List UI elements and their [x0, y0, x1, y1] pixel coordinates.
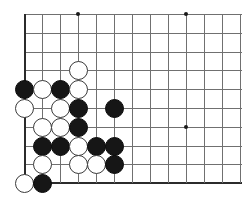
board-edge-bottom [24, 182, 242, 184]
stone-white-e9[interactable] [87, 155, 106, 174]
grid-line-horizontal-1 [24, 14, 242, 15]
stone-black-d7[interactable] [69, 118, 88, 137]
go-board [0, 0, 242, 203]
star-point-top-left [76, 12, 80, 16]
grid-line-horizontal-3 [24, 52, 242, 53]
grid-line-vertical-12 [222, 14, 223, 183]
goban-grid [0, 0, 242, 203]
stone-white-b5[interactable] [33, 80, 52, 99]
stone-white-d5[interactable] [69, 80, 88, 99]
stone-white-b7[interactable] [33, 118, 52, 137]
stone-white-d8[interactable] [69, 137, 88, 156]
stone-black-c8[interactable] [51, 137, 70, 156]
stone-white-d9[interactable] [69, 155, 88, 174]
stone-black-b10[interactable] [33, 174, 52, 193]
stone-black-c5[interactable] [51, 80, 70, 99]
grid-line-vertical-13 [240, 14, 241, 183]
grid-line-vertical-11 [204, 14, 205, 183]
stone-black-e8[interactable] [87, 137, 106, 156]
stone-white-c6[interactable] [51, 99, 70, 118]
stone-white-c7[interactable] [51, 118, 70, 137]
stone-white-a10[interactable] [15, 174, 34, 193]
grid-line-horizontal-4 [24, 70, 242, 71]
stone-white-d4[interactable] [69, 61, 88, 80]
stone-black-b8[interactable] [33, 137, 52, 156]
stone-black-f6[interactable] [105, 99, 124, 118]
stone-black-a5[interactable] [15, 80, 34, 99]
grid-line-vertical-9 [168, 14, 169, 183]
grid-line-vertical-10 [186, 14, 187, 183]
stone-black-d6[interactable] [69, 99, 88, 118]
star-point-mid-right [184, 125, 188, 129]
star-point-top-right [184, 12, 188, 16]
grid-line-horizontal-9 [24, 164, 242, 165]
stone-black-f8[interactable] [105, 137, 124, 156]
grid-line-vertical-7 [132, 14, 133, 183]
stone-white-a6[interactable] [15, 99, 34, 118]
stone-black-f9[interactable] [105, 155, 124, 174]
grid-line-horizontal-2 [24, 33, 242, 34]
stone-white-b9[interactable] [33, 155, 52, 174]
grid-line-vertical-8 [150, 14, 151, 183]
